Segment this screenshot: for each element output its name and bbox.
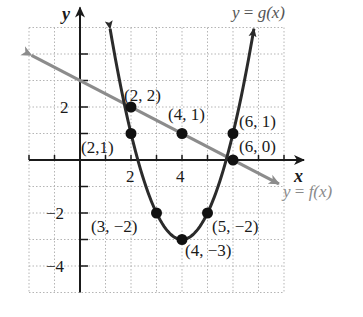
series-g-label-y: y: [230, 3, 240, 22]
data-point: [126, 128, 137, 139]
chart: y x 2 4 2 −2 −4 (2, 2) (2,1) (4, 1) (6, …: [0, 0, 363, 317]
series-g-label-fn: g(x): [258, 3, 286, 22]
data-point: [228, 128, 239, 139]
y-axis-label: y: [60, 4, 71, 24]
series-g-label-eq: =: [240, 3, 258, 22]
series-f-label: y = f(x): [281, 182, 333, 201]
series-f-label-eq: =: [291, 182, 309, 201]
point-label: (6, 0): [239, 137, 276, 156]
point-label: (4, 1): [168, 105, 205, 124]
y-tick-label: −2: [46, 204, 64, 223]
series-g-label: y = g(x): [230, 3, 285, 22]
y-tick-label: −4: [46, 257, 65, 276]
data-point: [228, 155, 239, 166]
point-label: (2,1): [81, 138, 114, 157]
x-tick-label: 4: [176, 167, 185, 186]
y-tick-label: 2: [60, 98, 69, 117]
point-label: (5, −2): [212, 217, 258, 236]
data-point: [151, 208, 162, 219]
x-tick-label: 2: [126, 167, 135, 186]
point-label: (3, −2): [91, 217, 137, 236]
point-label: (6, 1): [239, 112, 276, 131]
data-point: [177, 128, 188, 139]
point-label: (4, −3): [185, 241, 231, 260]
series-f-label-fn: f(x): [309, 182, 333, 201]
series-f-label-y: y: [281, 182, 291, 201]
point-label: (2, 2): [124, 86, 161, 105]
